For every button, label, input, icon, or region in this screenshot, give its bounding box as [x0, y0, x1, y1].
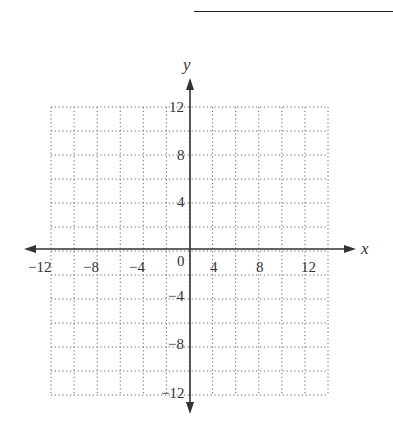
x-tick-label: −8 [83, 259, 99, 275]
x-tick-label: 8 [256, 259, 264, 275]
y-axis-up-arrow-icon [186, 78, 194, 90]
x-tick-label: −4 [129, 259, 145, 275]
y-axis-down-arrow-icon [186, 402, 194, 414]
y-tick-label: 4 [177, 194, 185, 210]
y-tick-label: 8 [177, 147, 185, 163]
y-axis-label: y [181, 55, 191, 74]
y-axis [186, 78, 194, 414]
x-tick-label: 4 [210, 259, 218, 275]
x-tick-labels: −12 −8 −4 4 8 12 [28, 259, 316, 275]
y-tick-label: −8 [168, 336, 184, 352]
y-tick-labels: 12 8 4 −4 −8 −12 [161, 99, 185, 401]
y-tick-label: 12 [169, 99, 184, 115]
y-tick-label: −4 [168, 288, 184, 304]
x-axis-label: x [360, 239, 369, 258]
coordinate-plane: x y 0 −12 −8 −4 4 8 12 12 8 4 −4 −8 −12 [0, 0, 393, 438]
origin-label: 0 [177, 253, 185, 269]
y-tick-label: −12 [161, 385, 184, 401]
x-tick-label: 12 [301, 259, 316, 275]
x-axis-left-arrow-icon [24, 245, 36, 253]
x-tick-label: −12 [28, 259, 51, 275]
x-axis-right-arrow-icon [344, 245, 356, 253]
